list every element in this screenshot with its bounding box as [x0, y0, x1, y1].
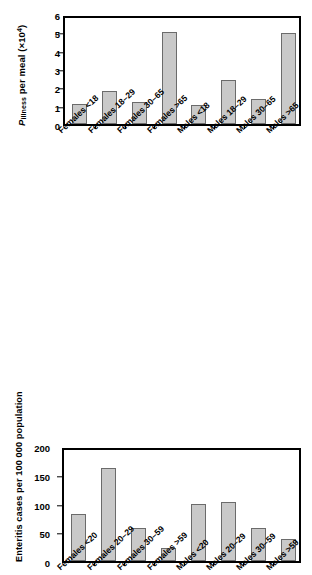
- chart-enteritis-cases: Enteritis cases per 100 000 population 0…: [0, 215, 312, 430]
- y-tick-label: 200: [34, 443, 50, 454]
- x-axis-labels-bottom: Females <20Females 20–29Females 30–59Fem…: [0, 565, 312, 575]
- y-axis-title-top-subscript: illness: [20, 97, 27, 120]
- y-axis-title-top-superscript: 4: [16, 28, 23, 32]
- y-axis-title-top-rest: per meal (×10: [16, 32, 27, 97]
- y-tick-label: 150: [34, 471, 50, 482]
- chart-p-illness-per-meal: Pillness per meal (×104) 0123456 Females…: [0, 0, 312, 215]
- y-axis-ticks-top: 0123456: [30, 16, 60, 126]
- y-axis-title-top-tail: ): [16, 25, 27, 28]
- x-axis-labels-top: Females <18Females 18–29Females 30–65Fem…: [0, 128, 312, 208]
- y-tick-label: 50: [39, 529, 50, 540]
- y-axis-title-top-symbol: P: [16, 120, 27, 126]
- y-tick-label: 6: [55, 11, 60, 22]
- y-tick-label: 100: [34, 500, 50, 511]
- y-axis-title-top: Pillness per meal (×104): [16, 25, 27, 126]
- y-axis-ticks-bottom: 050100150200: [20, 448, 50, 563]
